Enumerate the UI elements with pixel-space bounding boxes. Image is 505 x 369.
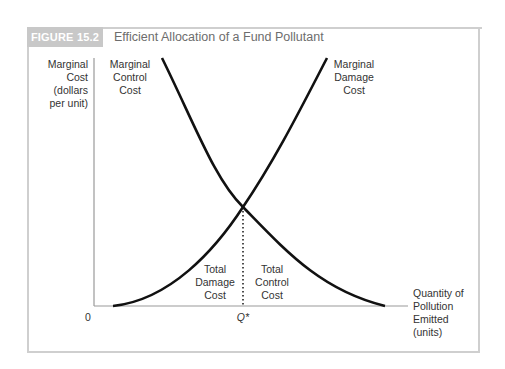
q-star-label: Q* bbox=[232, 311, 254, 324]
x-axis-label: Quantity of Pollution Emitted (units) bbox=[413, 287, 483, 339]
y-axis-label: Marginal Cost (dollars per unit) bbox=[30, 58, 88, 110]
origin-label: 0 bbox=[82, 311, 94, 324]
total-damage-cost-label: Total Damage Cost bbox=[190, 263, 240, 302]
mdc-label: Marginal Damage Cost bbox=[328, 58, 380, 97]
total-control-cost-label: Total Control Cost bbox=[247, 263, 297, 302]
mcc-label: Marginal Control Cost bbox=[103, 58, 157, 97]
